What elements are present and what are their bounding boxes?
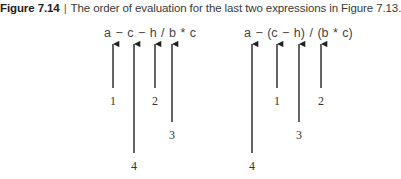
order-label-3: 3 <box>169 128 175 143</box>
order-label-3: 3 <box>296 128 302 143</box>
order-label-2: 2 <box>318 94 324 109</box>
order-label-1: 1 <box>110 94 116 109</box>
order-label-1: 1 <box>274 94 280 109</box>
order-label-2: 2 <box>152 94 158 109</box>
order-label-4: 4 <box>131 159 137 174</box>
order-label-4: 4 <box>249 159 255 174</box>
